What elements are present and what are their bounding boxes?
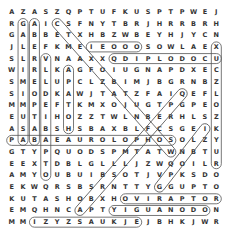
- grid-cell[interactable]: W: [74, 88, 85, 100]
- grid-cell[interactable]: I: [86, 41, 97, 53]
- grid-cell[interactable]: B: [40, 123, 51, 135]
- grid-cell[interactable]: T: [29, 111, 40, 123]
- grid-cell[interactable]: O: [108, 99, 119, 111]
- grid-cell[interactable]: F: [74, 18, 85, 30]
- grid-cell[interactable]: B: [120, 18, 131, 30]
- grid-cell[interactable]: R: [6, 18, 17, 30]
- grid-cell[interactable]: W: [165, 41, 176, 53]
- grid-cell[interactable]: O: [97, 135, 108, 147]
- grid-cell[interactable]: E: [51, 135, 62, 147]
- grid-cell[interactable]: I: [17, 88, 28, 100]
- grid-cell[interactable]: G: [165, 181, 176, 193]
- grid-cell[interactable]: A: [40, 193, 51, 205]
- grid-cell[interactable]: A: [165, 193, 176, 205]
- grid-cell[interactable]: T: [154, 146, 165, 158]
- grid-cell[interactable]: A: [86, 216, 97, 228]
- grid-cell[interactable]: L: [17, 53, 28, 65]
- grid-cell[interactable]: O: [154, 41, 165, 53]
- grid-cell[interactable]: K: [74, 99, 85, 111]
- grid-cell[interactable]: P: [86, 205, 97, 217]
- grid-cell[interactable]: E: [40, 99, 51, 111]
- grid-cell[interactable]: A: [188, 41, 199, 53]
- grid-cell[interactable]: J: [188, 216, 199, 228]
- grid-cell[interactable]: E: [142, 29, 153, 41]
- grid-cell[interactable]: Z: [17, 6, 28, 18]
- grid-cell[interactable]: X: [108, 123, 119, 135]
- grid-cell[interactable]: J: [86, 88, 97, 100]
- grid-cell[interactable]: E: [29, 76, 40, 88]
- grid-cell[interactable]: H: [86, 29, 97, 41]
- grid-cell[interactable]: Q: [51, 146, 62, 158]
- grid-cell[interactable]: J: [142, 170, 153, 182]
- grid-cell[interactable]: T: [97, 88, 108, 100]
- grid-cell[interactable]: W: [120, 29, 131, 41]
- grid-cell[interactable]: M: [6, 216, 17, 228]
- grid-cell[interactable]: G: [17, 18, 28, 30]
- grid-cell[interactable]: X: [188, 64, 199, 76]
- grid-cell[interactable]: O: [120, 170, 131, 182]
- grid-cell[interactable]: U: [17, 111, 28, 123]
- grid-cell[interactable]: U: [17, 193, 28, 205]
- grid-cell[interactable]: O: [199, 193, 210, 205]
- grid-cell[interactable]: H: [63, 123, 74, 135]
- grid-cell[interactable]: O: [188, 53, 199, 65]
- grid-cell[interactable]: A: [17, 135, 28, 147]
- grid-cell[interactable]: Z: [108, 29, 119, 41]
- grid-cell[interactable]: T: [131, 181, 142, 193]
- grid-cell[interactable]: D: [120, 53, 131, 65]
- grid-cell[interactable]: O: [63, 111, 74, 123]
- grid-cell[interactable]: W: [154, 158, 165, 170]
- grid-cell[interactable]: S: [108, 170, 119, 182]
- grid-cell[interactable]: S: [142, 41, 153, 53]
- grid-cell[interactable]: X: [29, 158, 40, 170]
- grid-cell[interactable]: P: [63, 76, 74, 88]
- grid-cell[interactable]: F: [142, 123, 153, 135]
- grid-cell[interactable]: Z: [40, 216, 51, 228]
- grid-cell[interactable]: U: [131, 99, 142, 111]
- grid-cell[interactable]: P: [165, 99, 176, 111]
- grid-cell[interactable]: Y: [29, 170, 40, 182]
- grid-cell[interactable]: P: [108, 146, 119, 158]
- grid-cell[interactable]: Z: [211, 111, 222, 123]
- grid-cell[interactable]: X: [97, 53, 108, 65]
- grid-cell[interactable]: L: [211, 88, 222, 100]
- grid-cell[interactable]: W: [6, 64, 17, 76]
- grid-cell[interactable]: I: [40, 18, 51, 30]
- grid-cell[interactable]: A: [74, 205, 85, 217]
- grid-cell[interactable]: T: [63, 29, 74, 41]
- grid-cell[interactable]: I: [29, 216, 40, 228]
- grid-cell[interactable]: Q: [63, 6, 74, 18]
- grid-cell[interactable]: U: [63, 146, 74, 158]
- grid-cell[interactable]: F: [51, 99, 62, 111]
- grid-cell[interactable]: I: [86, 170, 97, 182]
- grid-cell[interactable]: Q: [165, 158, 176, 170]
- grid-cell[interactable]: R: [86, 135, 97, 147]
- grid-cell[interactable]: R: [211, 158, 222, 170]
- grid-cell[interactable]: S: [6, 76, 17, 88]
- grid-cell[interactable]: O: [177, 205, 188, 217]
- grid-cell[interactable]: X: [74, 29, 85, 41]
- grid-cell[interactable]: R: [177, 18, 188, 30]
- grid-cell[interactable]: O: [108, 41, 119, 53]
- grid-cell[interactable]: B: [40, 29, 51, 41]
- grid-cell[interactable]: U: [97, 216, 108, 228]
- grid-cell[interactable]: J: [120, 216, 131, 228]
- grid-cell[interactable]: N: [211, 205, 222, 217]
- grid-cell[interactable]: B: [131, 29, 142, 41]
- grid-cell[interactable]: Q: [40, 181, 51, 193]
- grid-cell[interactable]: I: [199, 123, 210, 135]
- grid-cell[interactable]: U: [142, 205, 153, 217]
- grid-cell[interactable]: E: [29, 41, 40, 53]
- grid-cell[interactable]: G: [142, 99, 153, 111]
- grid-cell[interactable]: Z: [142, 158, 153, 170]
- grid-cell[interactable]: R: [211, 193, 222, 205]
- grid-cell[interactable]: S: [86, 181, 97, 193]
- grid-cell[interactable]: L: [188, 111, 199, 123]
- grid-cell[interactable]: Q: [108, 53, 119, 65]
- grid-cell[interactable]: H: [165, 216, 176, 228]
- grid-cell[interactable]: Z: [211, 76, 222, 88]
- grid-cell[interactable]: M: [17, 76, 28, 88]
- grid-cell[interactable]: K: [51, 64, 62, 76]
- grid-cell[interactable]: H: [165, 29, 176, 41]
- grid-cell[interactable]: S: [199, 111, 210, 123]
